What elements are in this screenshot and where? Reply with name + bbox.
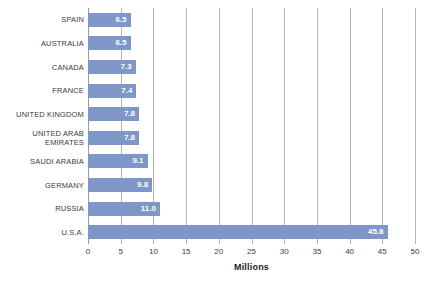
bar-value-label: 7.8 bbox=[124, 131, 135, 145]
bar-value-label: 7.4 bbox=[121, 84, 132, 98]
bar-row: 11.0 bbox=[88, 202, 415, 216]
bar: 9.1 bbox=[88, 154, 148, 168]
bar-value-label: 7.8 bbox=[124, 107, 135, 121]
tick-label: 50 bbox=[411, 247, 420, 256]
bar-row: 7.8 bbox=[88, 107, 415, 121]
bar-row: 7.4 bbox=[88, 84, 415, 98]
gridline bbox=[415, 8, 416, 244]
bar-row: 7.8 bbox=[88, 131, 415, 145]
tick-label: 20 bbox=[214, 247, 223, 256]
tick-label: 45 bbox=[378, 247, 387, 256]
bar-series: 6.56.57.37.47.87.89.19.811.045.8 bbox=[88, 8, 415, 244]
tick-label: 15 bbox=[182, 247, 191, 256]
bar-row: 45.8 bbox=[88, 225, 415, 239]
bar-value-label: 7.3 bbox=[121, 60, 132, 74]
bar: 7.8 bbox=[88, 107, 139, 121]
bar-row: 6.5 bbox=[88, 13, 415, 27]
bar: 7.3 bbox=[88, 60, 136, 74]
category-label: SPAIN bbox=[0, 15, 84, 24]
bar-value-label: 9.8 bbox=[137, 178, 148, 192]
category-label: UNITED ARAB EMIRATES bbox=[0, 129, 84, 147]
tick-label: 35 bbox=[312, 247, 321, 256]
category-label: UNITED KINGDOM bbox=[0, 110, 84, 119]
bar-chart: 6.56.57.37.47.87.89.19.811.045.8 SPAINAU… bbox=[0, 0, 445, 284]
bar: 7.8 bbox=[88, 131, 139, 145]
category-label: SAUDI ARABIA bbox=[0, 157, 84, 166]
bar: 6.5 bbox=[88, 13, 131, 27]
category-label: FRANCE bbox=[0, 86, 84, 95]
bar-row: 6.5 bbox=[88, 36, 415, 50]
category-label: CANADA bbox=[0, 63, 84, 72]
category-label: GERMANY bbox=[0, 181, 84, 190]
bar-row: 7.3 bbox=[88, 60, 415, 74]
category-label: U.S.A. bbox=[0, 228, 84, 237]
bar-row: 9.1 bbox=[88, 154, 415, 168]
bar-value-label: 11.0 bbox=[141, 202, 156, 216]
tick-label: 5 bbox=[118, 247, 122, 256]
category-label: RUSSIA bbox=[0, 204, 84, 213]
bar: 11.0 bbox=[88, 202, 160, 216]
bar: 9.8 bbox=[88, 178, 152, 192]
x-axis-title: Millions bbox=[88, 262, 415, 272]
category-label: AUSTRALIA bbox=[0, 39, 84, 48]
bar: 6.5 bbox=[88, 36, 131, 50]
tick-label: 10 bbox=[149, 247, 158, 256]
tick-label: 30 bbox=[280, 247, 289, 256]
bar-value-label: 6.5 bbox=[115, 13, 126, 27]
bar-row: 9.8 bbox=[88, 178, 415, 192]
bar-value-label: 45.8 bbox=[368, 225, 384, 239]
tick-label: 25 bbox=[247, 247, 256, 256]
plot-area: 6.56.57.37.47.87.89.19.811.045.8 bbox=[88, 8, 415, 244]
bar-value-label: 6.5 bbox=[115, 36, 126, 50]
tick-label: 0 bbox=[86, 247, 90, 256]
x-axis-tick-labels: 05101520253035404550 bbox=[88, 247, 415, 259]
tick-label: 40 bbox=[345, 247, 354, 256]
bar: 7.4 bbox=[88, 84, 136, 98]
bar: 45.8 bbox=[88, 225, 388, 239]
category-axis-labels: SPAINAUSTRALIACANADAFRANCEUNITED KINGDOM… bbox=[0, 8, 84, 244]
bar-value-label: 9.1 bbox=[132, 154, 143, 168]
